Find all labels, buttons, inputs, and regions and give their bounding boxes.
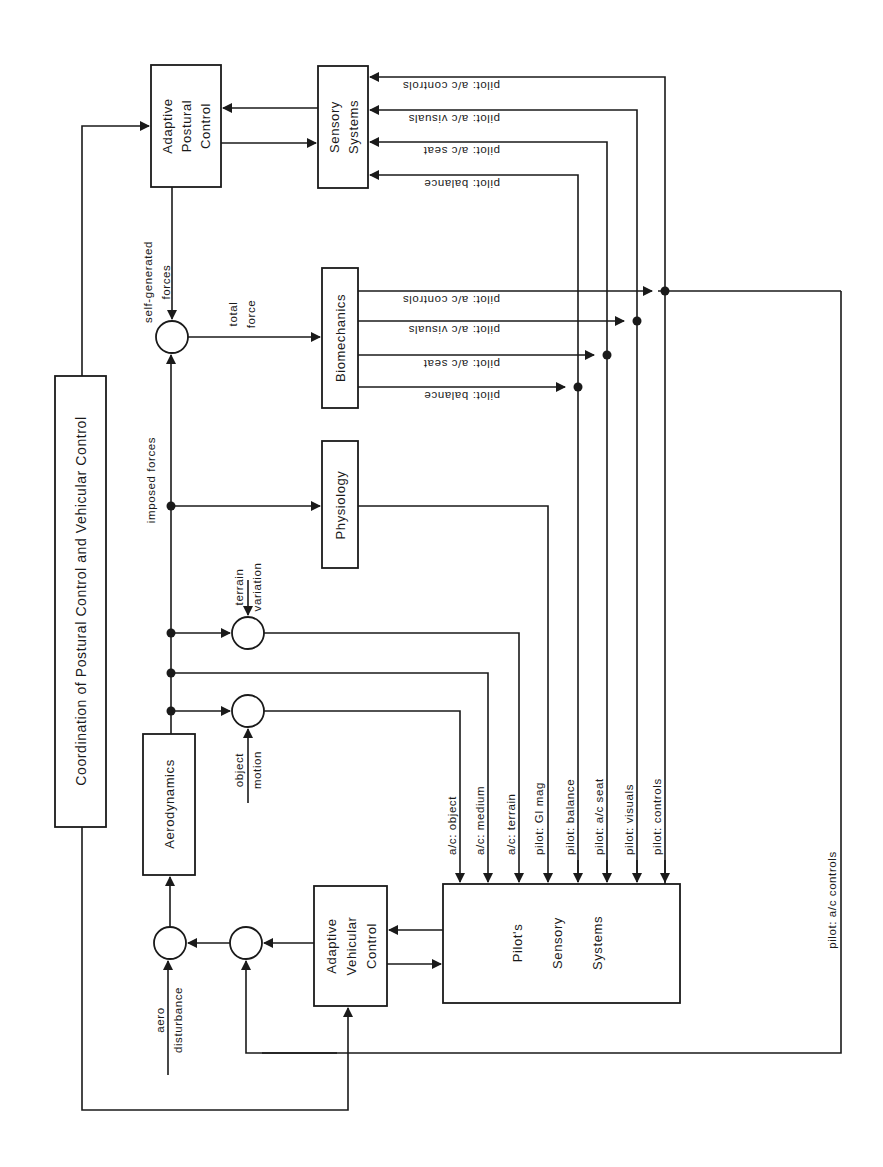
bm-output-label-controls: pilot: a/c controls <box>402 294 500 306</box>
pilot-input-arrows <box>578 860 665 882</box>
medium-to-pilot-link <box>171 673 488 882</box>
terrain-sum-junction <box>232 617 264 649</box>
apc-line3: Control <box>198 103 213 149</box>
pss-line1: Pilot's <box>510 924 525 962</box>
ss-input-label-visuals: pilot: a/c visuals <box>408 113 500 125</box>
disturbance-label: disturbance <box>172 987 184 1053</box>
pilot-input-label-object: a/c: object <box>446 796 458 855</box>
adaptive-vehicular-control-block: Adaptive Vehicular Control <box>314 886 387 1006</box>
coordination-label: Coordination of Postural Control and Veh… <box>73 416 89 785</box>
pilot-input-label-medium: a/c: medium <box>474 786 486 855</box>
variation-label: variation <box>251 563 263 612</box>
object-to-pilot-link <box>264 711 460 882</box>
adaptive-postural-control-block: Adaptive Postural Control <box>151 65 221 187</box>
physiology-label: Physiology <box>333 471 348 540</box>
control-sum-junction <box>230 927 262 959</box>
aerodynamics-block: Aerodynamics <box>143 734 195 875</box>
aero-label: aero <box>154 1007 166 1032</box>
pilot-input-label-balance: pilot: balance <box>564 779 576 855</box>
aero-sum-junction <box>154 927 186 959</box>
bm-output-label-visuals: pilot: a/c visuals <box>408 324 500 336</box>
forces-label: forces <box>160 265 172 300</box>
pilot-input-label-controls: pilot: controls <box>651 778 663 855</box>
ss-line2: Systems <box>346 100 361 154</box>
ss-input-label-seat: pilot: a/c seat <box>423 145 500 157</box>
apc-line2: Postural <box>179 100 194 153</box>
object-label: object <box>233 753 245 787</box>
coordination-block: Coordination of Postural Control and Veh… <box>55 376 106 827</box>
ss-input-label-balance: pilot: balance <box>424 178 500 190</box>
imposed-forces-label: imposed forces <box>145 437 157 523</box>
terrain-label: terrain <box>233 569 245 606</box>
ss-input-label-controls: pilot: a/c controls <box>402 80 500 92</box>
pilot-input-labels: a/c: object a/c: medium a/c: terrain pil… <box>446 778 663 855</box>
pss-line2: Sensory <box>550 917 565 969</box>
self-generated-label: self-generated <box>142 241 154 323</box>
sensory-input-lines: pilot: a/c controls pilot: a/c visuals p… <box>370 77 665 897</box>
bm-output-label-seat: pilot: a/c seat <box>423 358 500 370</box>
bm-output-label-balance: pilot: balance <box>424 390 500 402</box>
biomechanics-block: Biomechanics <box>322 268 358 408</box>
avc-line3: Control <box>364 923 379 969</box>
apc-line1: Adaptive <box>160 98 175 153</box>
postural-vehicular-control-diagram: Coordination of Postural Control and Veh… <box>0 0 883 1167</box>
object-sum-junction <box>232 695 264 727</box>
total-label: total <box>227 302 239 327</box>
pss-line3: Systems <box>590 916 605 970</box>
biomechanics-label: Biomechanics <box>333 294 348 382</box>
sensory-systems-block: Sensory Systems <box>318 66 368 188</box>
physiology-block: Physiology <box>322 441 358 568</box>
feedback-controls-label: pilot: a/c controls <box>826 851 838 949</box>
pilot-input-label-gi-mag: pilot: GI mag <box>533 782 545 855</box>
pilot-input-label-visuals: pilot: visuals <box>623 784 635 855</box>
pilot-input-label-terrain: a/c: terrain <box>505 793 517 855</box>
aerodynamics-label: Aerodynamics <box>162 759 177 849</box>
motion-label: motion <box>251 751 263 789</box>
avc-line1: Adaptive <box>324 918 339 973</box>
coord-to-vehicular-link <box>82 827 348 1110</box>
pilot-input-label-seat: pilot: a/c seat <box>593 778 605 855</box>
force-label: force <box>245 300 257 329</box>
ss-line1: Sensory <box>327 101 342 153</box>
avc-line2: Vehicular <box>344 916 359 975</box>
total-force-sum-junction <box>156 321 188 353</box>
coord-to-postural-link <box>82 126 149 376</box>
pilots-sensory-systems-block: Pilot's Sensory Systems <box>443 884 680 1003</box>
